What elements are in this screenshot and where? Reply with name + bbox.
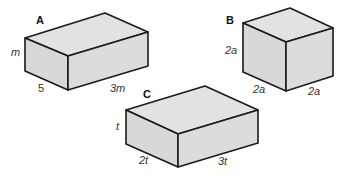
- box-b-width-label: 2a: [307, 85, 320, 97]
- cuboid-diagram: A m 5 3m B 2a 2a 2a C t 2t 3t: [0, 0, 342, 180]
- box-b-label: B: [226, 14, 234, 26]
- box-a-width-label: 3m: [110, 82, 125, 94]
- box-b-depth-label: 2a: [252, 83, 265, 95]
- box-c-depth-label: 2t: [138, 154, 149, 166]
- box-c-height-label: t: [116, 120, 120, 132]
- box-c-width-label: 3t: [218, 155, 228, 167]
- box-c-label: C: [143, 88, 151, 100]
- box-a-depth-label: 5: [38, 82, 44, 94]
- box-a-label: A: [36, 14, 44, 26]
- box-a-height-label: m: [11, 46, 20, 58]
- box-c: C t 2t 3t: [116, 86, 258, 167]
- box-b-height-label: 2a: [224, 44, 237, 56]
- box-a: A m 5 3m: [11, 13, 148, 94]
- box-b: B 2a 2a 2a: [224, 8, 333, 97]
